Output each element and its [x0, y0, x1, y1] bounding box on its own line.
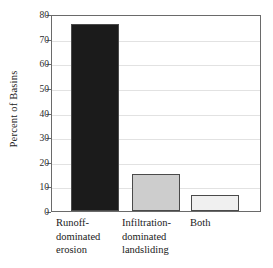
y-axis-title: Percent of Basins	[4, 0, 22, 224]
y-tick-label: 10	[23, 182, 49, 192]
bar	[71, 24, 119, 211]
y-tick-label: 60	[23, 59, 49, 69]
y-tick-label: 30	[23, 133, 49, 143]
bar	[132, 174, 180, 211]
y-tick-label: 20	[23, 158, 49, 168]
bar-chart: Percent of Basins 01020304050607080 Runo…	[0, 0, 273, 268]
plot-area	[51, 15, 261, 212]
x-axis-category-label: Infiltration- dominated landsliding	[122, 216, 190, 257]
y-tick-label: 70	[23, 35, 49, 45]
y-tick-label: 50	[23, 84, 49, 94]
y-tick-label: 0	[23, 207, 49, 217]
x-axis-category-label: Runoff- dominated erosion	[56, 216, 118, 257]
y-tick-label: 80	[23, 10, 49, 20]
x-axis-category-label: Both	[190, 216, 238, 230]
bar	[191, 195, 239, 211]
y-tick-label: 40	[23, 109, 49, 119]
